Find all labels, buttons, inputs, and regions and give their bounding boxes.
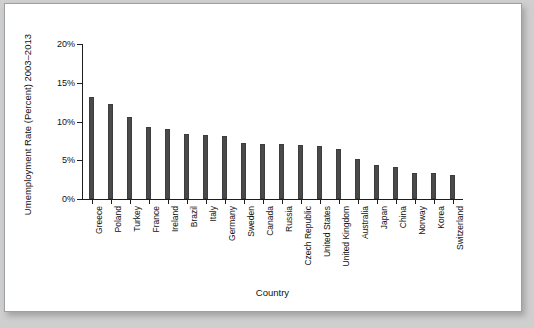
x-tick-mark [206, 200, 207, 204]
y-axis-title: Umemployment Rate (Percent) 2003–2013 [23, 34, 33, 215]
x-axis-title: Country [82, 287, 463, 298]
y-tick-label: 0% [29, 195, 75, 204]
x-tick-label: Sweden [247, 206, 256, 237]
x-tick-label: Japan [380, 206, 389, 229]
x-tick-mark [130, 200, 131, 204]
x-tick-mark [396, 200, 397, 204]
y-tick-mark [77, 199, 83, 200]
x-tick-mark [149, 200, 150, 204]
x-tick-label: Germany [228, 206, 237, 241]
x-tick-label: Brazil [190, 206, 199, 227]
bar [431, 173, 436, 199]
bar [146, 127, 151, 199]
x-tick-label: United States [323, 206, 332, 257]
y-tick-label: 10% [29, 118, 75, 127]
bar [336, 149, 341, 199]
page-background: 0%5%10%15%20% GreecePolandTurkeyFranceIr… [0, 0, 534, 328]
x-tick-mark [263, 200, 264, 204]
x-tick-label: Italy [209, 206, 218, 222]
bar [127, 117, 132, 199]
bar [393, 167, 398, 199]
bar [108, 104, 113, 199]
y-tick-mark [77, 44, 83, 45]
y-tick-label: 5% [29, 156, 75, 165]
x-tick-mark [225, 200, 226, 204]
x-tick-label: Canada [266, 206, 275, 236]
y-tick-mark [77, 160, 83, 161]
x-tick-mark [187, 200, 188, 204]
bar [298, 145, 303, 199]
y-tick-label: 20% [29, 40, 75, 49]
x-tick-mark [377, 200, 378, 204]
bar [317, 146, 322, 199]
bar [412, 173, 417, 199]
x-tick-label: China [399, 206, 408, 228]
x-tick-mark [301, 200, 302, 204]
x-tick-mark [111, 200, 112, 204]
x-tick-label: Norway [418, 206, 427, 235]
x-tick-label: Australia [361, 206, 370, 239]
bar [222, 136, 227, 199]
x-tick-mark [415, 200, 416, 204]
bar [374, 165, 379, 199]
x-tick-mark [168, 200, 169, 204]
bar [89, 97, 94, 199]
bar [241, 143, 246, 199]
bar [450, 175, 455, 199]
bar [279, 144, 284, 199]
y-tick-mark [77, 122, 83, 123]
x-tick-mark [339, 200, 340, 204]
x-tick-label: Korea [437, 206, 446, 229]
bar [355, 159, 360, 199]
y-tick-label: 15% [29, 79, 75, 88]
x-tick-mark [244, 200, 245, 204]
x-tick-label: Greece [95, 206, 104, 234]
x-tick-mark [453, 200, 454, 204]
x-tick-label: Czech Republic [304, 206, 313, 266]
bar-chart: 0%5%10%15%20% GreecePolandTurkeyFranceIr… [5, 4, 523, 313]
x-tick-label: Turkey [133, 206, 142, 232]
x-tick-mark [282, 200, 283, 204]
x-tick-mark [358, 200, 359, 204]
x-tick-mark [320, 200, 321, 204]
x-tick-label: France [152, 206, 161, 232]
x-tick-label: United Kingdom [342, 206, 351, 266]
x-tick-label: Ireland [171, 206, 180, 232]
bar [203, 135, 208, 199]
bar [260, 144, 265, 199]
x-tick-mark [434, 200, 435, 204]
x-tick-label: Switzerland [456, 206, 465, 250]
bar [184, 134, 189, 199]
x-tick-mark [92, 200, 93, 204]
x-tick-label: Poland [114, 206, 123, 232]
y-tick-mark [77, 83, 83, 84]
chart-paper: 0%5%10%15%20% GreecePolandTurkeyFranceIr… [4, 3, 522, 312]
x-tick-label: Russia [285, 206, 294, 232]
bar [165, 129, 170, 199]
x-axis-line [82, 199, 463, 200]
